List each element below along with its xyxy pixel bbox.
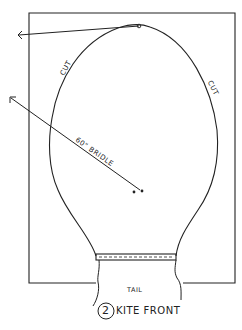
figure-number: 2 xyxy=(102,304,110,317)
tail-label: TAIL xyxy=(127,286,142,294)
kite-front-drawing xyxy=(0,0,242,330)
bridle-grommet-a xyxy=(133,191,136,194)
tail-edge-right xyxy=(175,260,181,300)
figure-caption: KITE FRONT xyxy=(116,305,180,316)
bridle-grommet-b xyxy=(141,190,144,193)
material-outline xyxy=(29,13,235,283)
top-line xyxy=(19,26,139,35)
